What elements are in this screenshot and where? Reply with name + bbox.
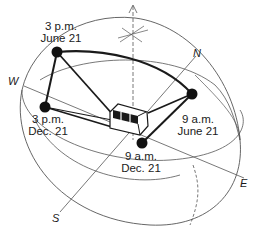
label-3pm-june21: 3 p.m. June 21 (35, 20, 87, 44)
direction-north: N (193, 47, 201, 59)
june21-path (57, 51, 192, 94)
meridian-dashed (190, 165, 198, 225)
label-date: June 21 (172, 125, 224, 137)
label-time: 9 a.m. (115, 150, 167, 162)
direction-east: E (240, 177, 247, 189)
sun-dot-9am-june21 (187, 89, 198, 100)
line-3pm-jun-to-panel (57, 52, 115, 117)
zenith-star-line (122, 28, 142, 42)
sun-dot-9am-dec21 (137, 138, 148, 149)
direction-south: S (52, 212, 59, 224)
label-9am-june21: 9 a.m. June 21 (172, 113, 224, 137)
label-date: Dec. 21 (22, 125, 74, 137)
label-date: Dec. 21 (115, 162, 167, 174)
direction-west: W (8, 75, 18, 87)
label-time: 9 a.m. (172, 113, 224, 125)
sun-dot-3pm-june21 (52, 47, 63, 58)
solar-panel (110, 104, 148, 135)
label-time: 3 p.m. (35, 20, 87, 32)
label-time: 3 p.m. (22, 113, 74, 125)
label-9am-dec21: 9 a.m. Dec. 21 (115, 150, 167, 174)
sun-dot-3pm-dec21 (40, 102, 51, 113)
label-3pm-dec21: 3 p.m. Dec. 21 (22, 113, 74, 137)
zenith-star-line (120, 26, 144, 42)
label-date: June 21 (35, 32, 87, 44)
